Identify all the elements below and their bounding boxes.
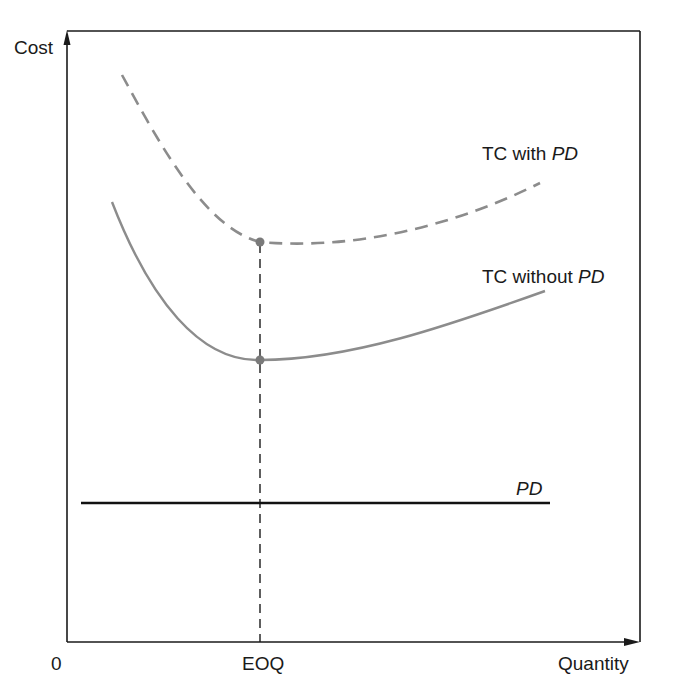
tc-with-pd-label: TC with PD <box>482 143 578 164</box>
tc-with-pd-curve <box>122 75 540 244</box>
tc-without-pd-min-marker <box>256 356 265 365</box>
tc-without-pd-curve <box>112 202 545 360</box>
origin-label: 0 <box>51 653 62 674</box>
tc-without-pd-label: TC without PD <box>482 266 605 287</box>
tc-with-pd-label-plain: TC with <box>482 143 552 164</box>
y-axis-label: Cost <box>14 37 54 58</box>
y-axis-arrow-icon <box>64 30 71 45</box>
x-axis-label: Quantity <box>558 653 629 674</box>
tc-without-pd-label-italic: PD <box>578 266 605 287</box>
x-axis-arrow-icon <box>624 638 640 646</box>
eoq-chart: Cost Quantity 0 EOQ TC with PD TC withou… <box>0 0 673 683</box>
eoq-tick-label: EOQ <box>242 653 284 674</box>
tc-with-pd-min-marker <box>256 238 265 247</box>
pd-label: PD <box>516 478 543 499</box>
tc-with-pd-label-italic: PD <box>552 143 579 164</box>
tc-without-pd-label-plain: TC without <box>482 266 578 287</box>
